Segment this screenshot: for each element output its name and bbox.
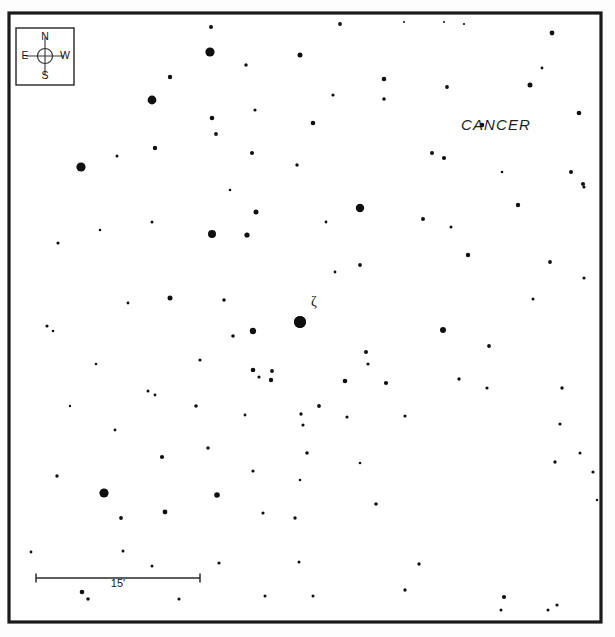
star-point bbox=[443, 21, 445, 23]
star-label-zeta-cancri: ζ bbox=[311, 294, 317, 309]
star-point bbox=[122, 550, 125, 553]
star-point bbox=[582, 185, 585, 188]
constellation-label: CANCER bbox=[461, 116, 531, 133]
star-point bbox=[358, 263, 362, 267]
star-point bbox=[214, 492, 220, 498]
star-point bbox=[244, 232, 249, 237]
star-chart: N S E W CANCER ζ 15' bbox=[0, 0, 615, 637]
star-point bbox=[569, 170, 573, 174]
compass-label-north: N bbox=[41, 30, 49, 42]
star-point bbox=[532, 298, 535, 301]
star-point bbox=[52, 330, 55, 333]
star-point bbox=[298, 561, 301, 564]
star-point bbox=[99, 488, 108, 497]
star-point bbox=[168, 75, 172, 79]
star-point bbox=[55, 474, 58, 477]
star-point bbox=[214, 132, 218, 136]
compass-label-east: E bbox=[21, 49, 28, 61]
star-point bbox=[86, 597, 90, 601]
star-point bbox=[251, 469, 254, 472]
star-point bbox=[450, 226, 453, 229]
star-point bbox=[244, 63, 247, 66]
star-point bbox=[343, 379, 348, 384]
star-point bbox=[153, 146, 157, 150]
star-point bbox=[205, 47, 214, 56]
star-point bbox=[403, 414, 406, 417]
star-point bbox=[403, 588, 406, 591]
star-point bbox=[466, 253, 470, 257]
star-point bbox=[177, 597, 180, 600]
star-point bbox=[364, 350, 368, 354]
star-point bbox=[269, 378, 273, 382]
star-point bbox=[558, 422, 561, 425]
star-point bbox=[194, 404, 198, 408]
star-point bbox=[264, 595, 267, 598]
star-point bbox=[30, 551, 33, 554]
star-point bbox=[198, 358, 201, 361]
star-point bbox=[299, 412, 302, 415]
star-point bbox=[151, 565, 154, 568]
star-chart-canvas: N S E W CANCER ζ 15' bbox=[0, 0, 615, 637]
star-point bbox=[116, 155, 119, 158]
star-point bbox=[254, 210, 259, 215]
star-point bbox=[555, 603, 558, 606]
star-point bbox=[251, 368, 256, 373]
star-point bbox=[553, 460, 556, 463]
star-point bbox=[99, 229, 102, 232]
star-point bbox=[550, 31, 555, 36]
star-point bbox=[374, 502, 378, 506]
star-point bbox=[299, 479, 302, 482]
star-point bbox=[440, 327, 446, 333]
star-point bbox=[457, 377, 460, 380]
star-point bbox=[359, 462, 362, 465]
star-point bbox=[502, 595, 506, 599]
star-point bbox=[421, 217, 425, 221]
star-point bbox=[257, 375, 260, 378]
star-point bbox=[560, 386, 563, 389]
star-point bbox=[56, 241, 59, 244]
star-point bbox=[463, 23, 465, 25]
star-point bbox=[114, 429, 117, 432]
star-point bbox=[442, 156, 446, 160]
star-point bbox=[366, 362, 369, 365]
star-point bbox=[253, 108, 256, 111]
star-point bbox=[76, 162, 85, 171]
star-point bbox=[301, 423, 304, 426]
star-point bbox=[334, 271, 337, 274]
star-point bbox=[148, 96, 157, 105]
star-point bbox=[500, 609, 503, 612]
star-point bbox=[345, 415, 348, 418]
star-point bbox=[541, 67, 544, 70]
star-point bbox=[305, 451, 309, 455]
star-point bbox=[206, 446, 209, 449]
star-point bbox=[229, 189, 232, 192]
star-point bbox=[293, 516, 296, 519]
star-point bbox=[154, 394, 157, 397]
star-zeta-cancri bbox=[294, 316, 306, 328]
star-point bbox=[168, 296, 173, 301]
star-point bbox=[417, 562, 420, 565]
star-point bbox=[298, 53, 303, 58]
star-point bbox=[151, 221, 154, 224]
star-point bbox=[356, 204, 364, 212]
star-point bbox=[403, 21, 405, 23]
star-point bbox=[208, 230, 216, 238]
star-point bbox=[548, 260, 552, 264]
star-point bbox=[295, 163, 298, 166]
star-point bbox=[577, 111, 582, 116]
star-point bbox=[501, 171, 504, 174]
star-point bbox=[209, 25, 213, 29]
star-point bbox=[596, 499, 598, 501]
chart-frame bbox=[9, 13, 601, 622]
star-point bbox=[80, 590, 85, 595]
star-point bbox=[445, 85, 449, 89]
star-point bbox=[384, 381, 388, 385]
star-point bbox=[147, 390, 150, 393]
compass-rose: N S E W bbox=[16, 28, 74, 85]
star-point bbox=[528, 83, 533, 88]
star-point bbox=[487, 344, 491, 348]
star-point bbox=[119, 516, 123, 520]
star-point bbox=[231, 334, 235, 338]
star-point bbox=[430, 151, 434, 155]
star-point bbox=[163, 510, 168, 515]
